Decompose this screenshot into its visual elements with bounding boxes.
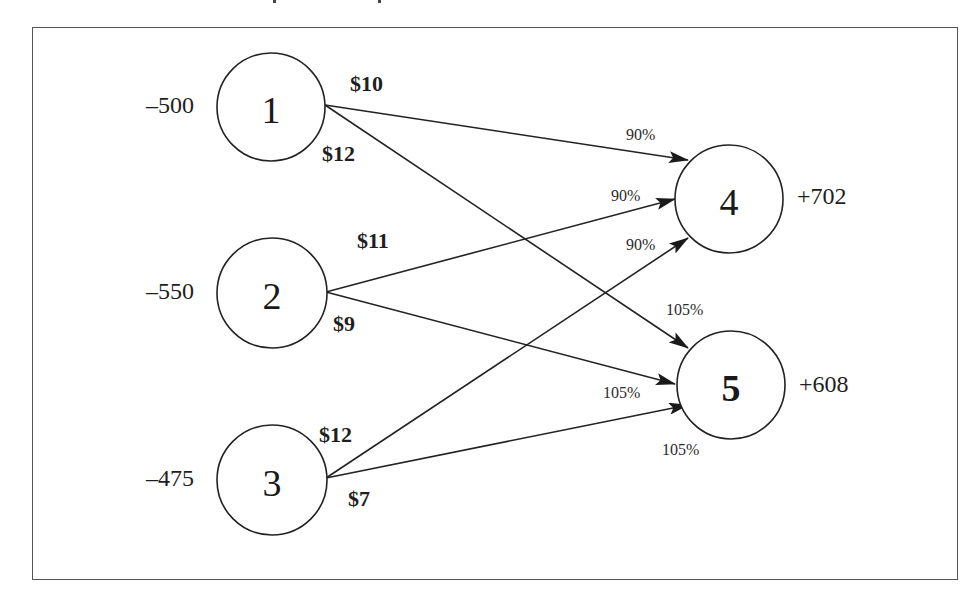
node-2-label: 2 bbox=[263, 275, 282, 317]
node-4-demand: +702 bbox=[797, 184, 847, 208]
node-4-label: 4 bbox=[720, 181, 739, 223]
edge-2-5-cost: $9 bbox=[333, 313, 355, 335]
edge-1-5-cost: $12 bbox=[322, 143, 355, 165]
node-5-demand: +608 bbox=[799, 372, 849, 396]
node-2-supply: –550 bbox=[146, 279, 194, 303]
edge-2-4-multiplier: 90% bbox=[611, 188, 640, 204]
edge-2-4-cost: $11 bbox=[357, 230, 389, 252]
edge-2-to-5 bbox=[326, 292, 675, 384]
edge-2-5-multiplier: 105% bbox=[603, 385, 640, 401]
node-1-supply: –500 bbox=[146, 93, 194, 117]
edge-1-4-multiplier: 90% bbox=[626, 127, 655, 143]
edge-3-5-cost: $7 bbox=[348, 488, 370, 510]
node-5-label: 5 bbox=[722, 367, 741, 409]
edge-3-5-multiplier: 105% bbox=[662, 442, 699, 458]
node-1-label: 1 bbox=[262, 89, 281, 131]
edge-1-5-multiplier: 105% bbox=[666, 302, 703, 318]
node-3-supply: –475 bbox=[146, 466, 194, 490]
edge-3-4-multiplier: 90% bbox=[626, 237, 655, 253]
edge-1-4-cost: $10 bbox=[350, 73, 383, 95]
edge-3-4-cost: $12 bbox=[319, 424, 352, 446]
node-3-label: 3 bbox=[263, 462, 282, 504]
